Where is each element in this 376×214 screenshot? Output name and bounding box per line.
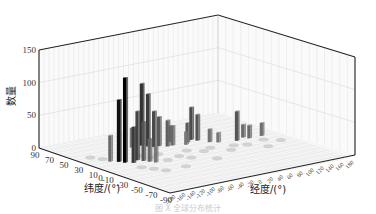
bar: [241, 124, 246, 138]
lat-tick-label: -70: [145, 190, 157, 200]
figure-caption: 图 X 全球分布统计: [155, 203, 222, 213]
lon-tick-label: -100: [204, 186, 216, 198]
bar: [123, 77, 128, 163]
z-axis-label: 数量: [5, 86, 17, 106]
lat-tick-label: 90: [31, 150, 41, 160]
lat-tick-label: 10: [89, 170, 99, 180]
lon-tick-label: 80: [296, 170, 304, 178]
lon-axis-label: 经度/(°): [250, 183, 286, 195]
bar: [247, 124, 252, 138]
bar: [235, 111, 240, 141]
lon-tick-label: 100: [305, 167, 316, 178]
bar: [117, 99, 122, 162]
z-tick-label: 50: [27, 110, 37, 120]
bar: [152, 110, 157, 147]
bar3d-chart: 050100150数量90705030100-10-30-50-70-90纬度/…: [0, 0, 376, 214]
bar: [208, 128, 213, 142]
lon-tick-label: 40: [276, 174, 284, 182]
lat-tick-label: 30: [74, 165, 84, 175]
lon-tick-label: 140: [324, 163, 335, 174]
lat-tick-label: -50: [131, 185, 143, 195]
bar: [108, 135, 113, 162]
lon-tick-label: -60: [225, 183, 235, 193]
bar: [216, 132, 221, 143]
bar: [132, 126, 137, 163]
z-tick-label: 100: [23, 78, 37, 88]
lon-tick-label: 120: [314, 165, 325, 176]
lat-tick-label: 70: [45, 155, 55, 165]
lon-tick-label: -80: [215, 185, 225, 195]
bar: [154, 145, 159, 162]
bar: [148, 138, 153, 162]
bar: [184, 131, 189, 145]
bar: [171, 125, 176, 145]
z-tick-label: 150: [23, 45, 37, 55]
bar: [166, 120, 171, 147]
lat-tick-label: 50: [60, 160, 70, 170]
lon-tick-label: 180: [344, 159, 355, 170]
lat-axis-label: 纬度/(°): [84, 182, 120, 194]
bar: [142, 121, 147, 161]
lon-tick-label: 160: [334, 161, 345, 172]
bar: [157, 116, 162, 146]
bar: [260, 122, 265, 136]
bar: [195, 114, 200, 141]
lon-tick-label: -40: [235, 181, 245, 191]
lon-tick-label: 60: [286, 172, 294, 180]
